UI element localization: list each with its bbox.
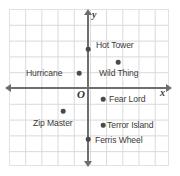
data-point-hot-tower [86, 47, 91, 52]
point-label-fear-lord: Fear Lord [109, 95, 145, 104]
coordinate-plane-figure: y x O Hot Tower Wild Thing Hurricane Fea… [0, 0, 180, 176]
origin-label: O [77, 89, 85, 100]
point-label-wild-thing: Wild Thing [99, 69, 138, 78]
y-axis-label: y [92, 10, 96, 20]
data-point-hurricane [77, 71, 82, 76]
x-axis-left-arrow-icon [5, 84, 11, 92]
x-axis-line [10, 87, 168, 89]
point-label-hot-tower: Hot Tower [96, 41, 134, 50]
data-point-wild-thing [116, 60, 121, 65]
point-label-hurricane: Hurricane [26, 69, 62, 78]
data-point-zip-master [61, 109, 66, 114]
data-point-fear-lord [101, 97, 106, 102]
data-point-terror-island [101, 123, 106, 128]
y-axis-up-arrow-icon [84, 9, 92, 15]
x-axis-right-arrow-icon [166, 84, 172, 92]
data-point-ferris-wheel [86, 137, 91, 142]
y-axis-line [87, 14, 89, 164]
x-axis-label: x [160, 88, 165, 98]
point-label-ferris-wheel: Ferris Wheel [95, 136, 143, 145]
point-label-zip-master: Zip Master [33, 119, 73, 128]
y-axis-down-arrow-icon [84, 161, 92, 167]
point-label-terror-island: Terror Island [107, 121, 153, 130]
